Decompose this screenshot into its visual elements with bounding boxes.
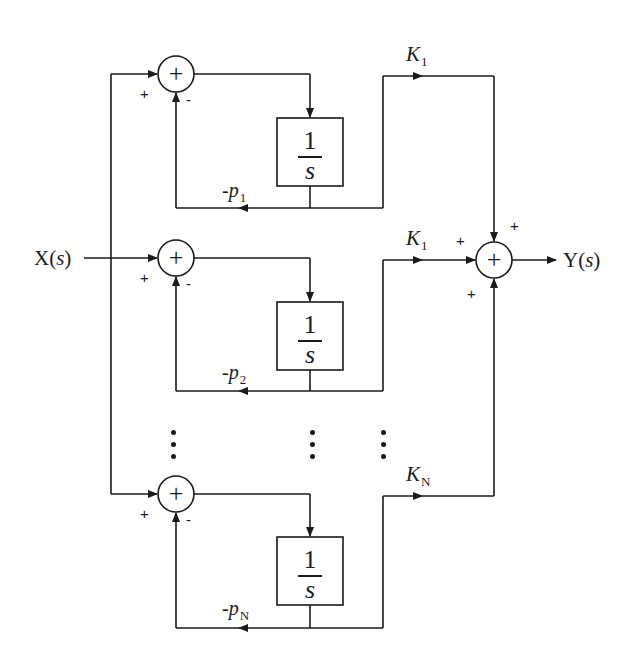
input-bus <box>111 74 157 494</box>
gain-label-2: K1 <box>406 228 428 249</box>
gain-label-n: KN <box>406 464 430 485</box>
feedback-label-2: -p2 <box>222 362 246 382</box>
ellipsis-summers <box>171 430 177 466</box>
summer-n-plus: + <box>158 481 194 507</box>
output-summer-left-sign: + <box>456 233 465 248</box>
feedback-label-n: -pN <box>222 598 249 618</box>
output-summer-bottom-sign: + <box>467 286 476 301</box>
summer-2-minus-sign: - <box>186 276 191 291</box>
integrator-2-tf: 1 s <box>277 312 343 366</box>
summer-1-minus-sign: - <box>186 92 191 107</box>
summer-n-plus-sign: + <box>140 506 149 521</box>
summer-2-plus: + <box>158 245 194 271</box>
ellipsis-gains <box>381 430 387 466</box>
summer-2-plus-sign: + <box>140 270 149 285</box>
summer-n-minus-sign: - <box>186 512 191 527</box>
integrator-1-tf: 1 s <box>277 128 343 182</box>
input-label: X(s) <box>34 248 71 269</box>
output-label: Y(s) <box>563 250 600 271</box>
gain-label-1: K1 <box>406 44 428 65</box>
ellipsis-blocks <box>310 430 316 466</box>
output-summer-top-sign: + <box>510 218 519 233</box>
integrator-n-tf: 1 s <box>277 547 343 601</box>
block-diagram: + + + + X(s) Y(s) + - 1 s -p1 K1 + - 1 s… <box>0 0 634 667</box>
summer-1-plus: + <box>158 61 194 87</box>
summer-1-plus-sign: + <box>140 86 149 101</box>
output-summer-plus: + <box>476 247 512 273</box>
feedback-label-1: -p1 <box>222 180 246 200</box>
